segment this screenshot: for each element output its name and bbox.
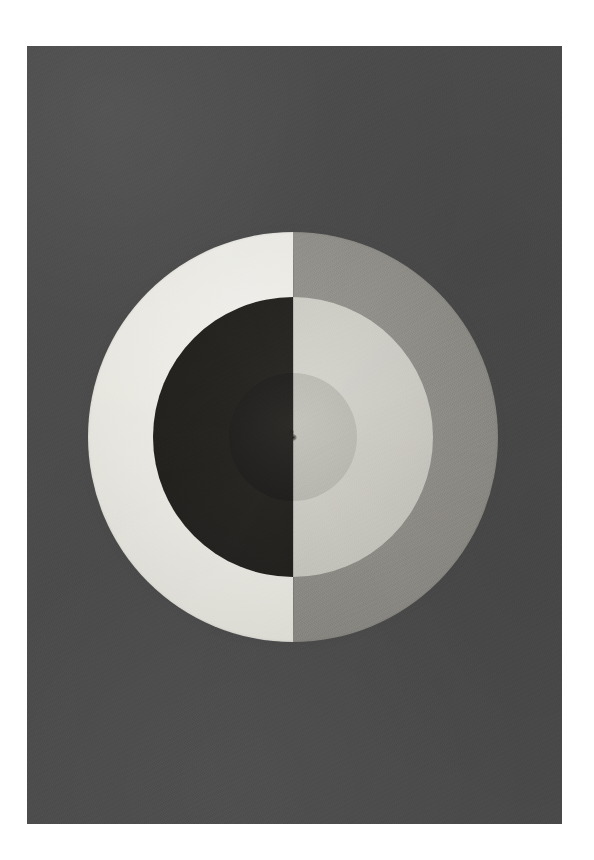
- artwork-frame: [0, 0, 594, 860]
- mount-border-left: [0, 0, 27, 860]
- centre-pivot-mark: [290, 434, 297, 441]
- painting-canvas: [27, 46, 562, 824]
- mount-border-top: [0, 0, 594, 46]
- mount-border-right: [562, 0, 594, 860]
- mount-border-bottom: [0, 824, 594, 860]
